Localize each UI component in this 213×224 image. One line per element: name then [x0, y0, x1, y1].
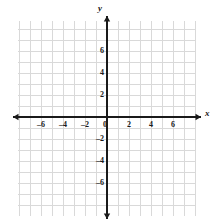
- coordinate-plane-figure: –6–4–20246–6–4–2246yx: [0, 0, 213, 224]
- y-tick-label-4: 4: [100, 69, 104, 77]
- y-tick-label--2: –2: [96, 135, 104, 143]
- y-tick-label-2: 2: [100, 91, 104, 99]
- x-tick-label--6: –6: [37, 121, 45, 129]
- y-tick-label--4: –4: [96, 157, 104, 165]
- x-axis-name: x: [205, 109, 210, 118]
- y-tick-label-6: 6: [100, 47, 104, 55]
- x-tick-label--4: –4: [59, 121, 67, 129]
- coordinate-plane-svg: [0, 0, 213, 224]
- y-axis-name: y: [98, 4, 102, 13]
- y-tick-label--6: –6: [96, 179, 104, 187]
- x-tick-label--2: –2: [81, 121, 89, 129]
- x-tick-label-2: 2: [127, 121, 131, 129]
- x-tick-label-4: 4: [149, 121, 153, 129]
- x-tick-label-6: 6: [171, 121, 175, 129]
- x-tick-label-0: 0: [103, 121, 107, 129]
